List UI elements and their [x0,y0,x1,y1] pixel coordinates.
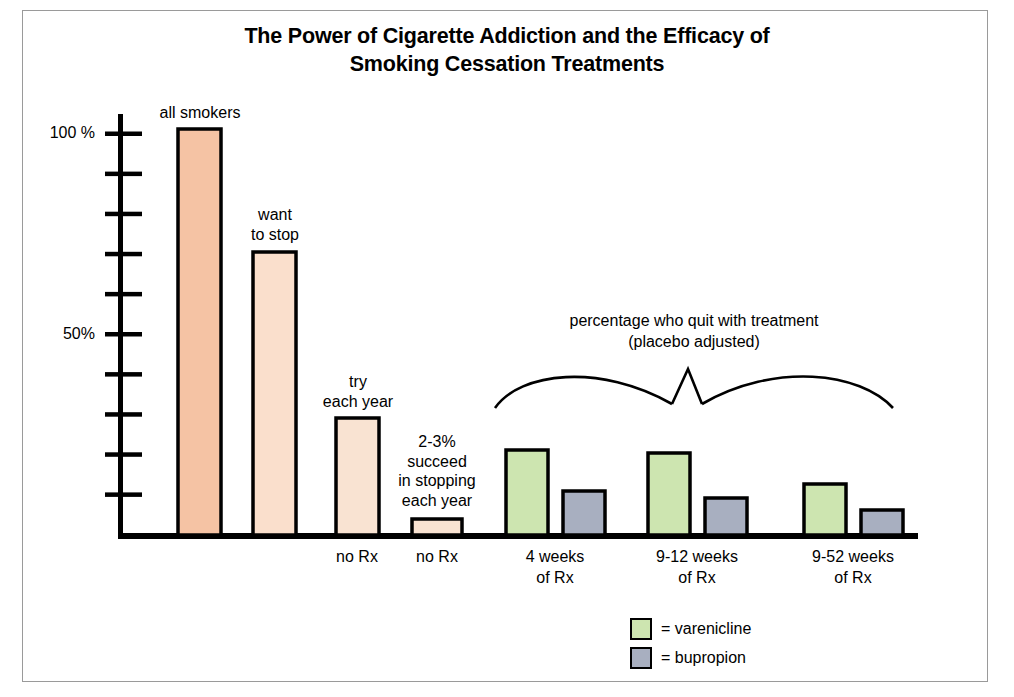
tick-70 [105,252,142,256]
tick-80 [105,212,142,217]
x-axis-label-9-52-weeks-line-1: 9-52 weeks [783,546,923,567]
bar-varenicline-4-weeks [506,450,548,535]
bar-bupropion-4-weeks [563,491,605,535]
bar-label-try-each-year: try each year [298,372,418,411]
legend-label-varenicline: = varenicline [661,620,751,638]
legend-swatch-varenicline [630,618,652,640]
bar-label-succeed-line-1: 2-3% [372,432,502,452]
legend-swatch-bupropion [630,647,652,669]
x-axis-label-4-weeks-line-1: 4 weeks [485,546,625,567]
bar-label-want-to-stop: want to stop [215,205,335,244]
bar-label-succeed: 2-3% succeed in stopping each year [372,432,502,510]
y-axis-label-100: 100 % [10,124,95,142]
bar-bupropion-9-12-weeks [705,498,747,535]
bar-label-try-each-year-line-1: try [298,372,418,392]
x-axis-label-9-52-weeks: 9-52 weeks of Rx [783,546,923,588]
tick-100 [105,132,142,137]
tick-60 [105,292,142,297]
legend-item-varenicline: = varenicline [630,618,751,640]
annotation-text: percentage who quit with treatment (plac… [494,310,894,352]
bar-bupropion-9-52-weeks [861,510,903,535]
x-axis-label-9-12-weeks-line-1: 9-12 weeks [627,546,767,567]
tick-50 [105,332,142,337]
x-axis-label-9-12-weeks: 9-12 weeks of Rx [627,546,767,588]
bar-label-try-each-year-line-2: each year [298,392,418,412]
bar-succeed [412,519,462,535]
x-axis-label-4-weeks: 4 weeks of Rx [485,546,625,588]
y-axis-line [118,114,123,538]
annotation-brace [495,369,893,408]
tick-20 [105,452,142,457]
bar-label-succeed-line-4: each year [372,491,502,511]
x-axis-label-no-rx-2: no Rx [377,546,497,567]
y-axis-label-50: 50% [10,325,95,343]
bar-varenicline-9-12-weeks [648,453,690,535]
tick-40 [105,372,142,377]
bar-label-want-to-stop-line-2: to stop [215,225,335,245]
bar-label-all-smokers: all smokers [120,103,280,123]
bar-label-succeed-line-3: in stopping [372,471,502,491]
legend-item-bupropion: = bupropion [630,647,746,669]
bar-label-succeed-line-2: succeed [372,452,502,472]
x-axis-label-9-12-weeks-line-2: of Rx [627,567,767,588]
bar-varenicline-9-52-weeks [804,484,846,535]
bar-label-want-to-stop-line-1: want [215,205,335,225]
tick-90 [105,172,142,177]
tick-10 [105,492,142,497]
x-axis-label-4-weeks-line-2: of Rx [485,567,625,588]
chart-area: The Power of Cigarette Addiction and the… [0,0,1014,697]
tick-30 [105,412,142,417]
bar-all-smokers [178,129,221,535]
annotation-line-1: percentage who quit with treatment [494,310,894,331]
y-axis-ticks [105,132,142,497]
annotation-line-2: (placebo adjusted) [494,331,894,352]
legend-label-bupropion: = bupropion [661,649,746,667]
x-axis-label-9-52-weeks-line-2: of Rx [783,567,923,588]
bar-want-to-stop [253,252,296,535]
